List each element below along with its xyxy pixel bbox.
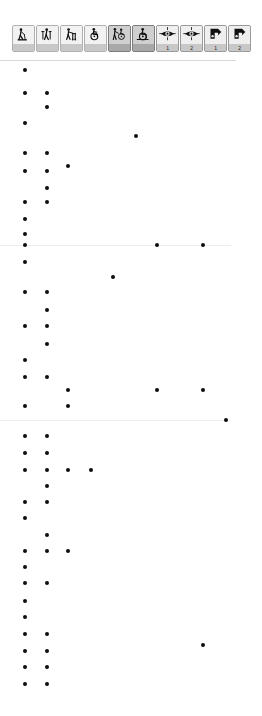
toolbar-button-hearing-sign-level-2[interactable]: 2 [228,25,251,52]
scatter-point[interactable] [45,649,49,653]
scatter-point[interactable] [23,68,27,72]
scatter-point[interactable] [23,516,27,520]
scatter-point[interactable] [23,649,27,653]
scatter-point[interactable] [23,500,27,504]
scatter-point[interactable] [23,682,27,686]
scatter-point[interactable] [23,169,27,173]
toolbar-button-caption [61,44,82,51]
scatter-point[interactable] [45,308,49,312]
scatter-point[interactable] [23,404,27,408]
scatter-point[interactable] [23,200,27,204]
scatter-point[interactable] [23,434,27,438]
toolbar-button-caption: 2 [229,44,250,51]
toolbar-button-strip: 1212 [12,25,251,53]
scatter-point[interactable] [155,388,159,392]
scatter-point[interactable] [23,121,27,125]
scatter-point[interactable] [45,500,49,504]
scatter-point[interactable] [201,388,205,392]
scatter-point[interactable] [23,599,27,603]
toolbar-button-wheelchair-manual[interactable] [84,25,107,52]
scatter-point[interactable] [45,434,49,438]
scatter-point[interactable] [45,105,49,109]
toolbar-button-vision-level-2[interactable]: 2 [180,25,203,52]
scatter-point[interactable] [45,375,49,379]
wheelchair-assisted-icon [109,26,130,44]
toolbar-button-walker-frame[interactable] [60,25,83,52]
scatter-point[interactable] [45,533,49,537]
scatter-point[interactable] [23,565,27,569]
scatter-point[interactable] [45,342,49,346]
scatter-point[interactable] [201,643,205,647]
hand-sign-icon [229,26,250,44]
scatter-point[interactable] [23,91,27,95]
scatter-point[interactable] [23,451,27,455]
scatter-point[interactable] [23,324,27,328]
scatter-point[interactable] [45,632,49,636]
scatter-plot-canvas[interactable] [0,61,262,716]
scatter-point[interactable] [66,388,70,392]
plot-hairline [0,420,231,421]
pictogram-toolbar: 1212 [0,0,262,60]
eye-icon [181,26,202,44]
scatter-point[interactable] [23,358,27,362]
person-with-walker-icon [61,26,82,44]
toolbar-button-caption [37,44,58,51]
scatter-point[interactable] [45,151,49,155]
scatter-point[interactable] [66,468,70,472]
scatter-point[interactable] [45,581,49,585]
scatter-point[interactable] [201,243,205,247]
toolbar-button-walking-aid-crutches[interactable] [36,25,59,52]
scatter-point[interactable] [23,468,27,472]
scatter-point[interactable] [45,484,49,488]
scatter-point[interactable] [23,290,27,294]
scatter-point[interactable] [134,134,138,138]
scatter-point[interactable] [66,549,70,553]
plot-hairline [0,245,231,246]
scatter-point[interactable] [23,581,27,585]
person-with-cane-icon [13,26,34,44]
toolbar-button-wheelchair-assisted[interactable] [108,25,131,52]
scatter-point[interactable] [45,682,49,686]
hand-sign-icon [205,26,226,44]
toolbar-button-caption: 1 [205,44,226,51]
toolbar-button-caption [13,44,34,51]
scatter-point[interactable] [45,324,49,328]
wheelchair-icon [85,26,106,44]
scatter-point[interactable] [45,468,49,472]
toolbar-button-walking-aid-cane[interactable] [12,25,35,52]
scatter-point[interactable] [23,151,27,155]
scatter-point[interactable] [23,260,27,264]
toolbar-button-caption [133,44,154,51]
scatter-point[interactable] [45,290,49,294]
toolbar-button-caption [109,44,130,51]
scatter-point[interactable] [45,665,49,669]
scatter-point[interactable] [45,91,49,95]
scatter-point[interactable] [89,468,93,472]
scatter-point[interactable] [111,275,115,279]
scatter-point[interactable] [45,169,49,173]
scatter-point[interactable] [23,615,27,619]
scatter-point[interactable] [66,164,70,168]
scatter-point[interactable] [155,243,159,247]
toolbar-button-hearing-sign-level-1[interactable]: 1 [204,25,227,52]
scatter-point[interactable] [23,375,27,379]
toolbar-button-caption [85,44,106,51]
scatter-point[interactable] [23,549,27,553]
scatter-point[interactable] [45,451,49,455]
app-root: 1212 [0,0,262,716]
toolbar-button-vision-level-1[interactable]: 1 [156,25,179,52]
scatter-point[interactable] [23,243,27,247]
wheelchair-electric-icon [133,26,154,44]
scatter-point[interactable] [23,217,27,221]
scatter-point[interactable] [45,549,49,553]
scatter-point[interactable] [45,200,49,204]
toolbar-button-wheelchair-electric[interactable] [132,25,155,52]
scatter-point[interactable] [224,418,228,422]
person-with-crutches-icon [37,26,58,44]
scatter-point[interactable] [45,186,49,190]
scatter-point[interactable] [23,232,27,236]
eye-icon [157,26,178,44]
scatter-point[interactable] [23,665,27,669]
scatter-point[interactable] [66,404,70,408]
scatter-point[interactable] [23,632,27,636]
